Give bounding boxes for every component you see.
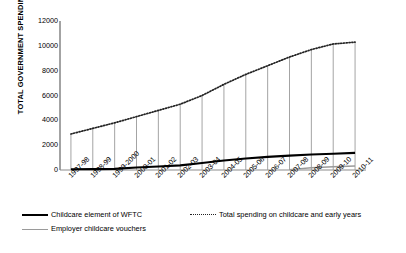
series-total-spending [71,42,355,134]
legend-right: Total spending on childcare and early ye… [190,211,361,225]
legend-label: Childcare element of WFTC [51,211,142,218]
chart-container: TOTAL GOVERNMENT SPENDING 02000400060008… [0,0,406,253]
legend-swatch-icon [22,211,48,218]
legend-label: Total spending on childcare and early ye… [219,211,361,218]
legend-item: Total spending on childcare and early ye… [190,211,361,218]
legend-label: Employer childcare vouchers [51,225,146,232]
legend-item: Employer childcare vouchers [22,225,146,232]
legend-item: Childcare element of WFTC [22,211,146,218]
legend-left: Childcare element of WFTCEmployer childc… [22,211,146,240]
legend-swatch-icon [22,226,48,233]
legend-swatch-icon [190,211,216,218]
